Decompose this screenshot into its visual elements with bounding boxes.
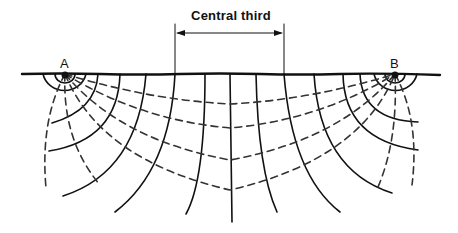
electrode-field-diagram <box>0 0 458 233</box>
current-flow-lines <box>45 74 414 190</box>
arrowhead-left-icon <box>176 30 185 36</box>
arrowhead-right-icon <box>274 30 283 36</box>
equipotential-center <box>230 74 232 222</box>
central-third-label: Central third <box>176 8 286 23</box>
electrode-a-dot <box>62 72 69 79</box>
electrode-b-label: B <box>390 56 399 71</box>
ground-surface-line <box>22 74 440 76</box>
equipotentials-b <box>256 74 418 212</box>
electrode-b-dot <box>392 72 399 79</box>
equipotentials-a <box>43 74 205 214</box>
electrode-a-label: A <box>60 56 69 71</box>
